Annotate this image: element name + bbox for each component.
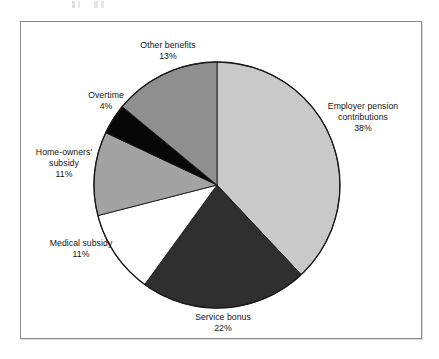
pie-label-overtime-percent: 4% <box>64 101 148 112</box>
pie-label-home-owners-subsidy-name: Home-owners' <box>16 147 112 158</box>
pie-label-other-benefits: Other benefits 13% <box>116 40 220 62</box>
pie-label-overtime-name: Overtime <box>64 90 148 101</box>
pie-label-other-benefits-percent: 13% <box>116 51 220 62</box>
pie-label-medical-subsidy-name: Medical subsidy <box>28 238 134 249</box>
pie-label-service-bonus-percent: 22% <box>173 323 273 334</box>
pie-label-overtime: Overtime 4% <box>64 90 148 112</box>
pie-chart: Other benefits 13% Overtime 4% Home-owne… <box>0 0 439 359</box>
pie-label-other-benefits-name: Other benefits <box>116 40 220 51</box>
pie-label-employer-pension-contributions: Employer pension contributions 38% <box>311 101 415 135</box>
pie-label-service-bonus: Service bonus 22% <box>173 312 273 334</box>
pie-label-service-bonus-name: Service bonus <box>173 312 273 323</box>
pie-label-employer-pension-contributions-percent: 38% <box>311 123 415 134</box>
pie-label-employer-pension-contributions-name: Employer pension <box>311 101 415 112</box>
pie-label-home-owners-subsidy-percent: 11% <box>16 169 112 180</box>
pie-label-home-owners-subsidy-name2: subsidy <box>16 158 112 169</box>
pie-label-medical-subsidy: Medical subsidy 11% <box>28 238 134 260</box>
pie-label-medical-subsidy-percent: 11% <box>28 249 134 260</box>
pie-label-home-owners-subsidy: Home-owners' subsidy 11% <box>16 147 112 181</box>
pie-label-employer-pension-contributions-name2: contributions <box>311 112 415 123</box>
